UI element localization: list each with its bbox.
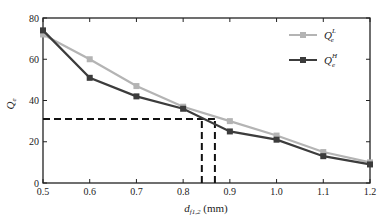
x-tick-label: 1.2 [364, 186, 377, 197]
legend-label: QHe [324, 52, 338, 69]
x-tick-label: 0.9 [224, 186, 237, 197]
data-series [40, 27, 373, 167]
x-tick-label: 0.8 [177, 186, 190, 197]
y-tick-label: 80 [29, 13, 39, 24]
y-axis-label: Qe [4, 98, 18, 109]
y-tick-label: 20 [29, 136, 39, 147]
x-axis-label: df1,2 (mm) [184, 202, 228, 216]
x-tick-label: 1.1 [317, 186, 330, 197]
legend-label: QLe [324, 27, 336, 44]
dashed-guides [43, 119, 215, 183]
chart: 020406080 0.50.60.70.80.91.01.11.2 QLeQH… [0, 0, 384, 222]
x-tick-label: 0.7 [130, 186, 143, 197]
y-tick-label: 60 [29, 54, 39, 65]
y-axis: 020406080 [29, 13, 370, 189]
x-tick-label: 0.5 [37, 186, 50, 197]
x-axis: 0.50.60.70.80.91.01.11.2 [37, 18, 377, 197]
legend: QLeQHe [289, 27, 338, 69]
y-tick-label: 40 [29, 95, 39, 106]
x-tick-label: 1.0 [270, 186, 283, 197]
x-tick-label: 0.6 [83, 186, 96, 197]
